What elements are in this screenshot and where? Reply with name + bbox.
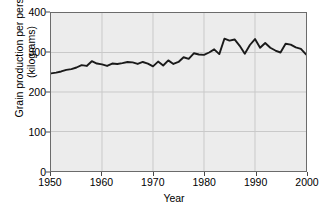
x-tick-mark — [307, 172, 308, 176]
gridlines — [51, 13, 306, 171]
y-tick-label: 100 — [28, 126, 46, 138]
x-tick-label: 1970 — [141, 176, 164, 188]
x-tick-mark — [50, 172, 51, 176]
x-axis-title-label: Year — [163, 192, 184, 204]
y-tick-label: 200 — [28, 86, 46, 98]
y-tick-label: 300 — [28, 46, 46, 58]
y-tick-label: 400 — [28, 6, 46, 18]
plot-svg — [51, 13, 306, 171]
x-tick-label: 1960 — [90, 176, 113, 188]
x-tick-label: 1980 — [193, 176, 216, 188]
x-tick-mark — [101, 172, 102, 176]
x-tick-label: 2000 — [295, 176, 318, 188]
data-line — [51, 39, 306, 74]
chart-container: Grain production per person (kilograms) … — [0, 0, 320, 215]
plot-area — [50, 12, 307, 172]
x-tick-mark — [153, 172, 154, 176]
x-axis-tick-labels: 195019601970198019902000 — [0, 176, 320, 192]
x-tick-mark — [256, 172, 257, 176]
x-tick-mark — [204, 172, 205, 176]
x-axis-title: Year — [0, 192, 320, 204]
x-tick-label: 1990 — [244, 176, 267, 188]
x-tick-label: 1950 — [38, 176, 61, 188]
data-series-group — [51, 39, 306, 74]
